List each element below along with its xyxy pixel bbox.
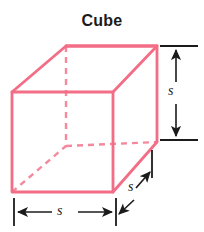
height-dimension <box>160 46 198 140</box>
depth-arrow-upper-right <box>136 172 150 188</box>
width-dimension-label: s <box>57 204 62 218</box>
dimension-annotations <box>0 0 204 232</box>
depth-dimension-label: s <box>128 180 133 194</box>
height-dimension-label: s <box>168 84 173 98</box>
depth-arrow-lower-left <box>119 200 134 214</box>
cube-figure: Cube <box>0 0 204 232</box>
width-dimension <box>14 198 116 226</box>
depth-dimension <box>119 150 152 214</box>
